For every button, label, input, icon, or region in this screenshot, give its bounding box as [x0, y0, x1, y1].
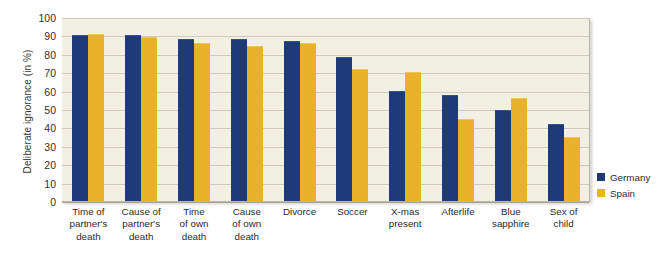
bar-group	[62, 18, 115, 201]
legend-item-germany[interactable]: Germany	[597, 170, 650, 184]
bar-spain	[300, 43, 316, 201]
bar-group	[115, 18, 168, 201]
bar-group	[273, 18, 326, 201]
bar-group	[326, 18, 379, 201]
chart-legend: GermanySpain	[597, 170, 650, 202]
x-axis-label-line: present	[373, 218, 438, 230]
y-axis-tick-labels: 1009080706050403020100	[20, 18, 56, 202]
plot-area	[62, 18, 590, 202]
y-axis-tick-label: 80	[20, 50, 56, 61]
y-axis-tick-label: 60	[20, 86, 56, 97]
y-axis-tick-label: 70	[20, 68, 56, 79]
bars-layer	[62, 18, 589, 201]
bar-germany	[231, 39, 247, 201]
x-axis-label-line: death	[214, 231, 279, 243]
gridline	[62, 202, 589, 203]
legend-label: Germany	[610, 172, 650, 183]
bar-germany	[442, 95, 458, 201]
bar-germany	[389, 91, 405, 201]
bar-group	[537, 18, 590, 201]
bar-spain	[458, 119, 474, 201]
x-axis-label-line: of own	[214, 218, 279, 230]
bar-group	[168, 18, 221, 201]
bar-spain	[405, 72, 421, 201]
x-axis-label-line: Sex of	[531, 206, 596, 218]
y-axis-tick-label: 90	[20, 31, 56, 42]
bar-spain	[511, 98, 527, 201]
bar-germany	[284, 41, 300, 201]
bar-spain	[564, 137, 580, 201]
bar-germany	[72, 35, 88, 201]
y-axis-tick-label: 100	[20, 13, 56, 24]
legend-swatch-icon	[597, 173, 605, 181]
legend-swatch-icon	[597, 189, 605, 197]
bar-spain	[352, 69, 368, 201]
x-axis-category-label: Sex ofchild	[531, 206, 596, 231]
y-axis-tick-label: 30	[20, 142, 56, 153]
y-axis-tick-label: 0	[20, 197, 56, 208]
bar-group	[432, 18, 485, 201]
bar-germany	[495, 110, 511, 201]
y-axis-tick-label: 10	[20, 178, 56, 189]
y-axis-tick-label: 20	[20, 160, 56, 171]
y-axis-tick-label: 50	[20, 105, 56, 116]
legend-label: Spain	[610, 188, 635, 199]
bar-germany	[125, 35, 141, 201]
bar-group	[379, 18, 432, 201]
bar-chart-figure: Deliberate ignorance (in %) 100908070605…	[0, 0, 659, 256]
bar-group	[484, 18, 537, 201]
y-axis-tick-label: 40	[20, 123, 56, 134]
legend-item-spain[interactable]: Spain	[597, 186, 650, 200]
bar-germany	[178, 39, 194, 201]
x-axis-category-labels: Time ofpartner'sdeathCause ofpartner'sde…	[62, 206, 590, 254]
bar-germany	[336, 57, 352, 201]
bar-spain	[141, 37, 157, 201]
bar-spain	[88, 34, 104, 201]
x-axis-label-line: child	[531, 218, 596, 230]
bar-spain	[247, 46, 263, 201]
bar-germany	[548, 124, 564, 201]
bar-group	[220, 18, 273, 201]
bar-spain	[194, 43, 210, 201]
